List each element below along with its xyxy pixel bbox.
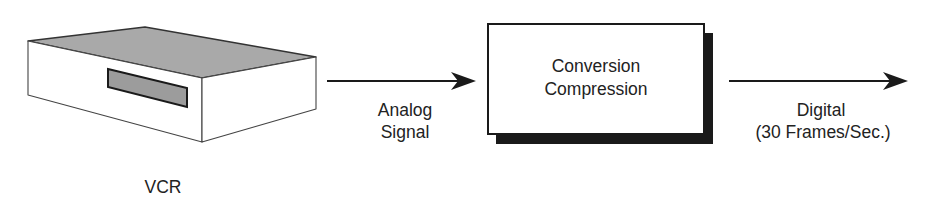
- vcr-label: VCR: [145, 177, 182, 197]
- analog-signal-label-line1: Analog: [378, 100, 433, 120]
- digital-label-line2: (30 Frames/Sec.): [755, 122, 890, 142]
- analog-signal-arrow: [327, 72, 476, 90]
- signal-flow-diagram: VCR Analog Signal Conversion Compression…: [0, 0, 932, 201]
- conversion-label: Conversion: [552, 56, 641, 76]
- analog-signal-label-line2: Signal: [381, 122, 430, 142]
- digital-label-line1: Digital: [797, 100, 846, 120]
- digital-output-arrow: [729, 72, 908, 90]
- compression-label: Compression: [544, 79, 647, 99]
- vcr-device: [28, 27, 316, 142]
